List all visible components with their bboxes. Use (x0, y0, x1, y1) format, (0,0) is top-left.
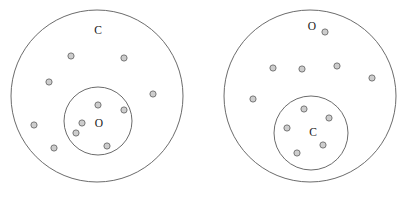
right-diagram-outer-ring-dot (250, 96, 256, 102)
left-diagram-outer-ring-dot (46, 79, 52, 85)
right-diagram-inner-dot (320, 142, 326, 148)
left-diagram-outer-label: C (94, 24, 102, 36)
right-diagram-outer-ring-dot (322, 29, 328, 35)
left-diagram-outer-ring-dot (51, 145, 57, 151)
left-diagram-inner-dot (73, 130, 79, 136)
right-diagram-inner-dot (326, 115, 332, 121)
right-diagram-outer-label: O (308, 20, 316, 32)
left-diagram: CO (11, 10, 183, 182)
left-diagram-inner-dot (95, 102, 101, 108)
left-diagram-inner-dot (79, 120, 85, 126)
left-diagram-outer-ring-dot (68, 53, 74, 59)
left-diagram-outer-ring-dot (31, 122, 37, 128)
left-diagram-outer-ring-dot (150, 91, 156, 97)
left-diagram-inner-dot (121, 107, 127, 113)
right-diagram-outer-ring-dot (369, 75, 375, 81)
left-diagram-inner-label: O (95, 117, 103, 129)
right-diagram-inner-dot (301, 106, 307, 112)
right-diagram-inner-dot (284, 125, 290, 131)
left-diagram-inner-dot (104, 143, 110, 149)
right-diagram-inner-label: C (309, 126, 317, 138)
right-diagram-outer-ring-dot (299, 66, 305, 72)
nested-circles-figure: CO OC (0, 0, 413, 197)
right-diagram-outer-ring-dot (270, 65, 276, 71)
right-diagram: OC (224, 10, 396, 182)
right-diagram-inner-dot (294, 150, 300, 156)
figure-root: CO OC (0, 0, 413, 197)
right-diagram-outer-ring-dot (334, 63, 340, 69)
left-diagram-outer-ring-dot (121, 55, 127, 61)
